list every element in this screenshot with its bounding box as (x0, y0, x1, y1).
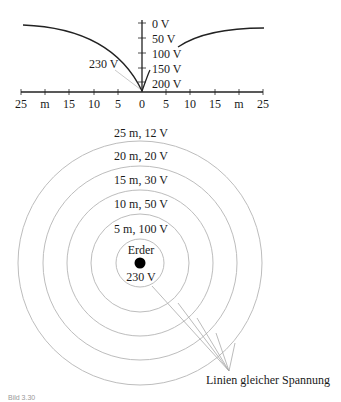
figure-caption: Bild 3.30 (8, 394, 35, 401)
peak-voltage-label: 230 V (89, 58, 118, 70)
distance-tick-label: 5 (163, 98, 169, 110)
distance-tick-label: 25 (15, 98, 27, 110)
potential-curve-right-inner (142, 70, 150, 91)
distance-tick-label: 5 (115, 98, 121, 110)
distance-tick-label: 0 (139, 98, 145, 110)
distance-tick-label: 15 (209, 98, 221, 110)
ring-label-20m: 20 m, 20 V (114, 150, 168, 162)
distance-unit-label: m (40, 98, 49, 110)
voltage-tick-label: 100 V (152, 48, 181, 60)
electrode-dot (135, 258, 146, 269)
distance-tick-label: 15 (63, 98, 75, 110)
annotation-leaders (152, 286, 235, 371)
potential-curve-left (23, 25, 142, 91)
distance-tick-label: 10 (88, 98, 100, 110)
voltage-tick-label: 0 V (152, 18, 169, 30)
equipotential-annotation: Linien gleicher Spannung (206, 374, 330, 386)
distance-tick-label: 25 (257, 98, 269, 110)
distance-tick-label: 10 (184, 98, 196, 110)
ring-label-15m: 15 m, 30 V (114, 174, 168, 186)
electrode-voltage-label: 230 V (126, 271, 155, 283)
electrode-label: Erder (128, 244, 155, 256)
voltage-tick-label: 200 V (152, 78, 181, 90)
ring-label-5m: 5 m, 100 V (114, 223, 168, 235)
voltage-tick-label: 50 V (152, 33, 175, 45)
ring-label-10m: 10 m, 50 V (114, 198, 168, 210)
voltage-tick-label: 150 V (152, 63, 181, 75)
ring-label-25m: 25 m, 12 V (114, 127, 168, 139)
potential-curve-right-outer (178, 28, 264, 47)
distance-unit-label: m (234, 98, 243, 110)
